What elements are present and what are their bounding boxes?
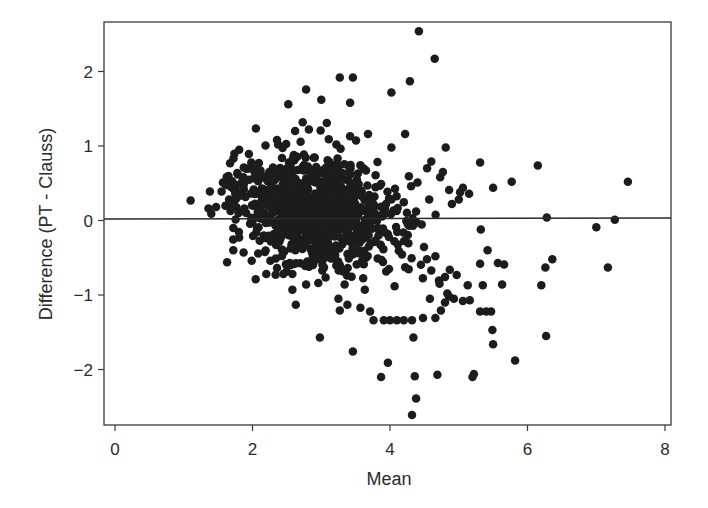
data-point [604, 263, 613, 272]
data-point [413, 178, 422, 187]
data-point [318, 249, 327, 258]
y-tick-label: 0 [84, 212, 93, 231]
data-point [288, 270, 297, 279]
data-point [477, 225, 486, 234]
data-point [343, 300, 352, 309]
data-point [476, 158, 485, 167]
data-point [256, 166, 265, 175]
data-point [407, 254, 416, 263]
data-point [300, 161, 309, 170]
data-point [387, 143, 396, 152]
data-point [385, 265, 394, 274]
data-point [332, 174, 341, 183]
data-point [226, 159, 235, 168]
data-point [377, 180, 386, 189]
data-point [266, 185, 275, 194]
data-point [404, 265, 413, 274]
data-point [463, 281, 472, 290]
y-axis-ticks: −2−1012 [74, 63, 104, 380]
data-point [624, 178, 633, 187]
data-point [240, 204, 249, 213]
data-point [261, 141, 270, 150]
data-point [431, 252, 440, 261]
data-point [252, 124, 261, 133]
data-point [349, 73, 358, 82]
data-point [230, 150, 239, 159]
data-point [303, 180, 312, 189]
data-point [369, 199, 378, 208]
data-point [270, 170, 279, 179]
data-point [247, 257, 256, 266]
data-point [285, 197, 294, 206]
data-point [419, 274, 428, 283]
data-point [261, 246, 270, 255]
x-tick-label: 0 [110, 440, 119, 459]
data-point [314, 279, 323, 288]
data-point [323, 119, 332, 128]
data-point [346, 161, 355, 170]
data-point [548, 255, 557, 264]
data-point [507, 178, 516, 187]
data-point [253, 224, 262, 233]
data-point [305, 125, 314, 134]
data-point [325, 135, 334, 144]
data-point [537, 281, 546, 290]
data-point [347, 273, 356, 282]
data-point [223, 258, 232, 267]
data-point [333, 154, 342, 163]
data-point [219, 178, 228, 187]
data-point [317, 219, 326, 228]
data-point [395, 246, 404, 255]
data-point [359, 274, 368, 283]
data-point [275, 226, 284, 235]
data-point [487, 307, 496, 316]
x-axis-title: Mean [366, 469, 411, 489]
data-point [318, 200, 327, 209]
data-point [354, 226, 363, 235]
data-point [245, 150, 254, 159]
data-point [430, 55, 439, 64]
data-point [541, 263, 550, 272]
data-point [321, 172, 330, 181]
data-point [229, 224, 238, 233]
data-point [346, 170, 355, 179]
data-point [390, 282, 399, 291]
data-point [425, 195, 434, 204]
y-tick-label: −2 [74, 361, 93, 380]
data-point [327, 180, 336, 189]
data-point [488, 326, 497, 335]
data-point [381, 228, 390, 237]
data-point [271, 270, 280, 279]
data-point [302, 280, 311, 289]
data-point [331, 245, 340, 254]
data-point [411, 372, 420, 381]
data-point [310, 198, 319, 207]
data-point [263, 177, 272, 186]
data-point [278, 154, 287, 163]
data-point [401, 130, 410, 139]
x-tick-label: 8 [660, 440, 669, 459]
data-point [417, 260, 426, 269]
x-axis-ticks: 02468 [110, 425, 669, 459]
data-point [224, 172, 233, 181]
y-axis-title: Difference (PT - Clauss) [36, 128, 56, 320]
data-point [186, 196, 195, 205]
data-point [489, 340, 498, 349]
scatter-plot: 02468 −2−1012 Mean Difference (PT - Clau… [0, 0, 708, 508]
data-point [288, 286, 297, 295]
data-point [365, 222, 374, 231]
data-point [361, 286, 370, 295]
data-point [465, 189, 474, 198]
data-point [324, 159, 333, 168]
data-point [377, 373, 386, 382]
data-point [217, 187, 226, 196]
data-point [405, 172, 414, 181]
data-point [406, 77, 415, 86]
data-point [371, 171, 380, 180]
data-point [384, 359, 393, 368]
data-point [229, 235, 238, 244]
data-point [437, 306, 446, 315]
data-point [356, 303, 365, 312]
data-point [346, 132, 355, 141]
data-point [370, 192, 379, 201]
